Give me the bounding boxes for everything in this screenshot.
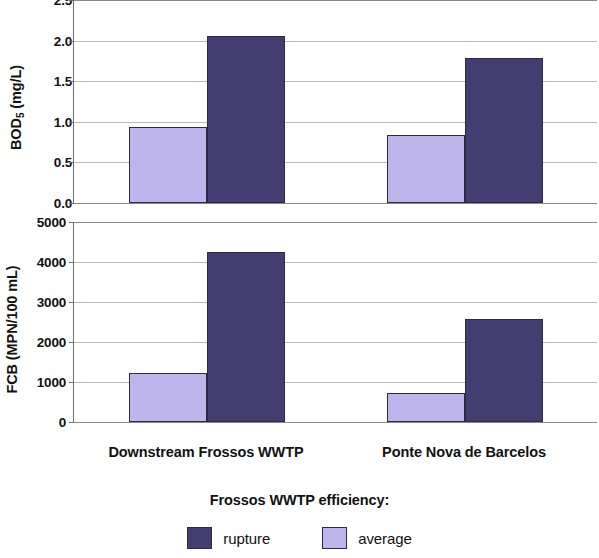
bar-average <box>387 135 465 203</box>
y-axis-tickmark <box>69 302 74 303</box>
legend-title: Frossos WWTP efficiency: <box>0 492 599 508</box>
y-axis-ticklabel: 4000 <box>37 255 66 270</box>
legend-label: average <box>358 530 412 547</box>
y-axis-ticklabel: 0 <box>59 415 66 430</box>
y-axis-tickmark <box>69 0 74 1</box>
legend: ruptureaverage <box>0 527 599 549</box>
chart-panel-fcb: FCB (MPN/100 mL) 010002000300040005000 <box>0 222 599 437</box>
plot-area-fcb <box>73 222 597 422</box>
plot-area-bod5 <box>73 0 597 203</box>
y-axis-tickmark <box>69 41 74 42</box>
y-axis-ticklabels-bod5: 0.00.51.01.52.02.5 <box>28 0 72 215</box>
y-axis-ticklabel: 3000 <box>37 295 66 310</box>
y-axis-tickmark <box>69 203 74 204</box>
gridline <box>74 262 597 263</box>
y-axis-label-bod5-subscript: 5 <box>15 113 26 118</box>
bar-rupture <box>207 36 285 203</box>
x-axis-category-label: Downstream Frossos WWTP <box>56 444 356 460</box>
y-axis-tickmark <box>69 81 74 82</box>
y-axis-tickmark <box>69 122 74 123</box>
legend-item: average <box>322 527 412 549</box>
legend-item: rupture <box>187 527 270 549</box>
legend-swatch <box>187 527 212 549</box>
bar-average <box>129 127 207 203</box>
gridline <box>74 422 597 423</box>
y-axis-ticklabel: 5000 <box>37 215 66 230</box>
y-axis-ticklabel: 2.5 <box>54 0 72 8</box>
y-axis-tickmark <box>69 222 74 223</box>
gridline <box>74 222 597 223</box>
y-axis-label-bod5-unit: (mg/L) <box>8 65 24 113</box>
y-axis-tickmark <box>69 262 74 263</box>
x-axis-category-labels: Downstream Frossos WWTPPonte Nova de Bar… <box>0 444 599 470</box>
y-axis-label-fcb: FCB (MPN/100 mL) <box>4 222 20 437</box>
y-axis-label-bod5: BOD5 (mg/L) <box>8 0 24 215</box>
gridline <box>74 203 597 204</box>
chart-figure: BOD5 (mg/L) 0.00.51.01.52.02.5 FCB (MPN/… <box>0 0 599 558</box>
y-axis-label-bod5-base: BOD <box>8 118 24 150</box>
bar-rupture <box>465 58 543 203</box>
y-axis-ticklabels-fcb: 010002000300040005000 <box>22 222 66 437</box>
y-axis-tickmark <box>69 422 74 423</box>
x-axis-category-label: Ponte Nova de Barcelos <box>314 444 599 460</box>
gridline <box>74 0 597 1</box>
y-axis-tickmark <box>69 342 74 343</box>
bar-average <box>387 393 465 422</box>
y-axis-ticklabel: 2000 <box>37 335 66 350</box>
bar-average <box>129 373 207 422</box>
gridline <box>74 302 597 303</box>
y-axis-ticklabel: 1000 <box>37 375 66 390</box>
chart-panel-bod5: BOD5 (mg/L) 0.00.51.01.52.02.5 <box>0 0 599 215</box>
y-axis-tickmark <box>69 382 74 383</box>
legend-swatch <box>322 527 347 549</box>
legend-label: rupture <box>223 530 270 547</box>
gridline <box>74 41 597 42</box>
y-axis-tickmark <box>69 162 74 163</box>
bar-rupture <box>465 319 543 422</box>
bar-rupture <box>207 252 285 422</box>
